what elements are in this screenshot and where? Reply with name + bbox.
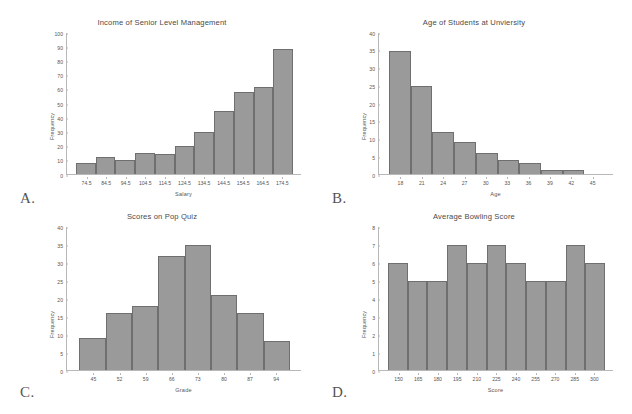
x-tick-label: 165: [408, 376, 428, 382]
x-tick-label: 66: [159, 376, 185, 382]
bar-series-b: [378, 33, 613, 174]
panel-letter-d: D.: [332, 384, 348, 401]
y-tick-label: 8: [372, 225, 378, 231]
x-tick-spacer: [378, 376, 389, 382]
y-tick-label: 20: [57, 144, 66, 150]
x-tick-label: 240: [506, 376, 526, 382]
x-tick-label: 27: [454, 180, 475, 186]
y-tick-label: 50: [57, 102, 66, 108]
histogram-bar: [563, 170, 585, 174]
histogram-bar: [526, 281, 546, 370]
x-tick-label: 42: [561, 180, 582, 186]
y-tick-label: 100: [55, 31, 67, 37]
x-tick-label: 180: [428, 376, 448, 382]
x-tick-label: 74.5: [77, 180, 97, 186]
histogram-bar: [487, 245, 507, 370]
plot-area-b: 0510152025303540: [378, 33, 613, 175]
y-tick-label: 80: [57, 59, 66, 65]
histogram-bar: [506, 263, 526, 370]
histogram-bar: [389, 51, 411, 174]
y-tick-label: 2: [372, 333, 378, 339]
y-tick-label: 30: [369, 66, 378, 72]
x-tick-label: 18: [390, 180, 411, 186]
x-tick-label: 59: [133, 376, 159, 382]
histogram-bar: [498, 160, 520, 174]
plot-area-c: 0510152025303540: [66, 227, 301, 371]
x-tick-label: 104.5: [136, 180, 156, 186]
y-tick-label: 70: [57, 73, 66, 79]
y-tick-label: 5: [372, 155, 378, 161]
x-tick-labels: 18212427303336394245: [378, 180, 613, 186]
x-tick-label: 124.5: [175, 180, 195, 186]
y-tick-label: 7: [372, 243, 378, 249]
x-tick-labels: 150165180195210225240255270285300: [378, 376, 613, 382]
x-axis-label: Age: [378, 191, 613, 197]
y-tick-label: 4: [372, 297, 378, 303]
y-tick-label: 0: [60, 369, 66, 375]
x-tick-labels: 4552596673808794: [66, 376, 301, 382]
histogram-bar: [388, 263, 408, 370]
y-axis-label: Frequency: [361, 113, 367, 140]
histogram-bar: [106, 313, 132, 370]
y-tick-label: 10: [369, 137, 378, 143]
y-tick-label: 20: [369, 102, 378, 108]
y-tick-label: 40: [57, 116, 66, 122]
x-axis-label: Salary: [66, 191, 301, 197]
x-tick-label: 39: [539, 180, 560, 186]
x-tick-spacer: [604, 376, 613, 382]
y-tick-label: 15: [57, 315, 66, 321]
x-tick-label: 52: [106, 376, 132, 382]
y-tick-label: 3: [372, 315, 378, 321]
y-tick-label: 30: [57, 130, 66, 136]
x-tick-label: 94: [263, 376, 289, 382]
histogram-bar: [585, 263, 605, 370]
y-tick-label: 5: [372, 279, 378, 285]
x-tick-spacer: [378, 180, 390, 186]
panel-letter-a: A.: [20, 190, 36, 207]
y-tick-label: 6: [372, 261, 378, 267]
x-tick-label: 285: [565, 376, 585, 382]
y-axis-label: Frequency: [49, 113, 55, 140]
x-axis: [378, 174, 613, 175]
x-tick-label: 36: [518, 180, 539, 186]
histogram-bar: [476, 153, 498, 174]
x-axis: [378, 370, 613, 371]
x-tick-label: 270: [545, 376, 565, 382]
histogram-bar: [541, 170, 563, 174]
x-tick-label: 33: [497, 180, 518, 186]
y-tick-label: 15: [369, 119, 378, 125]
x-tick-label: 21: [411, 180, 432, 186]
histogram-bar: [194, 132, 214, 174]
x-tick-spacer: [66, 180, 77, 186]
histogram-bar: [96, 157, 116, 174]
histogram-bar: [234, 92, 254, 174]
y-tick-label: 35: [369, 48, 378, 54]
histogram-bar: [211, 295, 237, 370]
histogram-bar: [408, 281, 428, 370]
y-tick-label: 0: [372, 369, 378, 375]
histogram-bar: [237, 313, 263, 370]
chart-title: Scores on Pop Quiz: [8, 212, 316, 221]
histogram-bar: [546, 281, 566, 370]
bar-series-a: [66, 33, 301, 174]
histogram-bar: [155, 154, 175, 174]
x-tick-labels: 74.584.594.5104.5114.5124.5134.5144.5154…: [66, 180, 301, 186]
x-tick-label: 174.5: [273, 180, 293, 186]
x-tick-label: 114.5: [155, 180, 175, 186]
histogram-bar: [411, 86, 433, 174]
x-tick-label: 150: [389, 376, 409, 382]
histogram-bar: [273, 49, 293, 174]
histogram-bar: [214, 111, 234, 174]
x-tick-label: 164.5: [253, 180, 273, 186]
plot-area-a: 0102030405060708090100: [66, 33, 301, 175]
y-tick-label: 35: [57, 243, 66, 249]
y-tick-label: 25: [57, 279, 66, 285]
chart-title: Income of Senior Level Management: [8, 18, 316, 27]
histogram-bar: [264, 341, 290, 370]
x-tick-label: 45: [80, 376, 106, 382]
y-tick-label: 90: [57, 45, 66, 51]
panel-letter-c: C.: [20, 384, 35, 401]
histogram-bar: [454, 142, 476, 174]
y-tick-label: 25: [369, 84, 378, 90]
chart-title: Average Bowling Score: [320, 212, 628, 221]
